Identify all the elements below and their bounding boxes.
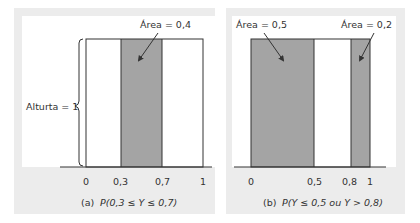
panel-b-tick: 0,5 bbox=[307, 176, 322, 187]
panel-b-area-label-right: Área = 0,2 bbox=[341, 19, 392, 30]
panel-b-tick: 0 bbox=[248, 176, 254, 187]
panel-a-area-label: Área = 0,4 bbox=[140, 19, 191, 30]
panel-a-tick: 1 bbox=[200, 176, 206, 187]
panel-a-tick: 0,3 bbox=[113, 176, 128, 187]
panel-a-tick: 0 bbox=[83, 176, 89, 187]
panel-b-area-label-left: Área = 0,5 bbox=[236, 19, 287, 30]
panel-a-chart: Alturta = 1 Área = 0,4 0 0,3 0,7 1 (a) P… bbox=[26, 19, 212, 208]
panel-b-caption-expression: P(Y ≤ 0,5 ou Y > 0,8) bbox=[282, 197, 383, 208]
panel-a-caption-expression: P(0,3 ≤ Y ≤ 0,7) bbox=[100, 197, 177, 208]
panel-b-tick: 0,8 bbox=[342, 176, 357, 187]
panel-b-caption-prefix: (b) bbox=[263, 197, 276, 208]
panel-a-caption-prefix: (a) bbox=[81, 197, 94, 208]
panel-a-tick: 0,7 bbox=[155, 176, 170, 187]
panel-a-height-label: Alturta = 1 bbox=[26, 101, 78, 112]
panel-a-shaded-region bbox=[121, 39, 162, 167]
panel-b-chart: Área = 0,5 Área = 0,2 0 0,5 0,8 1 (b) P(… bbox=[234, 19, 392, 208]
panel-b-shaded-region-left bbox=[251, 39, 314, 167]
panel-b-tick: 1 bbox=[367, 176, 373, 187]
